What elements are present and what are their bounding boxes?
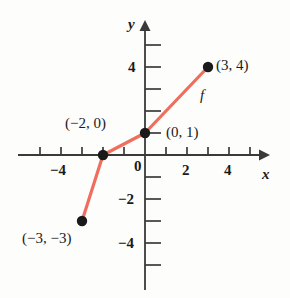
x-tick-label-4: 4 — [224, 163, 232, 178]
y-tick-label-4: 4 — [128, 60, 136, 75]
origin-label: 0 — [134, 159, 142, 174]
data-point-neg2-0 — [98, 150, 108, 160]
coordinate-plane — [0, 0, 290, 298]
y-tick-label-neg2: −2 — [118, 192, 134, 207]
point-label-neg2-0: (−2, 0) — [65, 116, 106, 131]
x-tick-label-neg4: −4 — [50, 163, 66, 178]
point-label-neg3-neg3: (−3, −3) — [22, 231, 71, 246]
point-label-3-4: (3, 4) — [216, 58, 249, 73]
data-point-3-4 — [203, 62, 213, 72]
x-axis-label: x — [262, 167, 270, 182]
data-point-neg3-neg3 — [77, 216, 87, 226]
x-axis-arrow — [259, 150, 270, 161]
y-tick-label-neg4: −4 — [118, 236, 134, 251]
function-label-f: f — [200, 88, 204, 103]
point-label-0-1: (0, 1) — [166, 125, 199, 140]
graph-figure: y x 0 −4 2 4 4 −2 −4 (3, 4) (−2, 0) (0, … — [0, 0, 290, 298]
y-axis-arrow — [140, 20, 151, 31]
data-point-0-1 — [140, 128, 150, 138]
y-axis-label: y — [128, 17, 135, 32]
x-tick-label-2: 2 — [182, 163, 190, 178]
